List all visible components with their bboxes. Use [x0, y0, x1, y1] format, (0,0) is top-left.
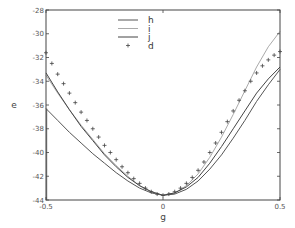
x-tick-label: 0	[161, 203, 165, 211]
y-tick-label: -34	[33, 78, 45, 86]
data-point-d	[97, 135, 101, 139]
data-point-d	[108, 151, 112, 155]
data-point-d	[120, 165, 124, 169]
x-axis-ticks: -0.500.5	[39, 10, 285, 211]
data-point-d	[91, 127, 95, 131]
data-point-d	[50, 61, 54, 65]
y-axis-label: e	[11, 100, 17, 110]
data-point-d	[243, 89, 247, 93]
legend-label: d	[148, 41, 154, 51]
y-tick-label: -44	[33, 197, 45, 205]
series-line-h	[46, 69, 280, 195]
data-point-d	[255, 71, 259, 75]
data-point-d	[73, 101, 77, 105]
plot-frame	[46, 10, 280, 200]
y-tick-label: -32	[33, 54, 44, 62]
y-tick-label: -42	[33, 173, 44, 181]
y-axis-ticks: -28-30-32-34-36-38-40-42-44	[33, 7, 280, 205]
y-tick-label: -36	[33, 102, 45, 110]
legend-item-i: i	[118, 24, 151, 34]
data-point-d	[62, 82, 66, 86]
data-point-d	[266, 58, 270, 62]
data-point-d	[114, 158, 118, 162]
legend-swatch	[126, 44, 130, 48]
data-point-d	[103, 143, 107, 147]
y-tick-label: -38	[33, 125, 44, 133]
y-tick-label: -40	[33, 149, 44, 157]
legend: hijd	[118, 15, 154, 51]
data-point-d	[161, 193, 165, 197]
data-point-d	[56, 72, 60, 76]
data-point-d	[167, 192, 171, 196]
plot-area	[44, 31, 282, 200]
data-point-d	[126, 171, 130, 175]
x-axis-label: g	[160, 212, 166, 222]
data-point-d	[272, 53, 276, 57]
y-tick-label: -30	[33, 30, 44, 38]
data-point-d	[85, 118, 89, 122]
data-point-d	[79, 110, 83, 114]
data-point-d	[67, 91, 71, 95]
data-point-d	[260, 64, 264, 68]
chart: -0.500.5 -28-30-32-34-36-38-40-42-44 g e…	[0, 0, 295, 228]
series-line-j	[46, 67, 280, 195]
legend-item-j: j	[118, 32, 151, 42]
x-tick-label: 0.5	[274, 203, 285, 211]
y-tick-label: -28	[33, 7, 44, 15]
legend-item-d: d	[126, 41, 154, 51]
